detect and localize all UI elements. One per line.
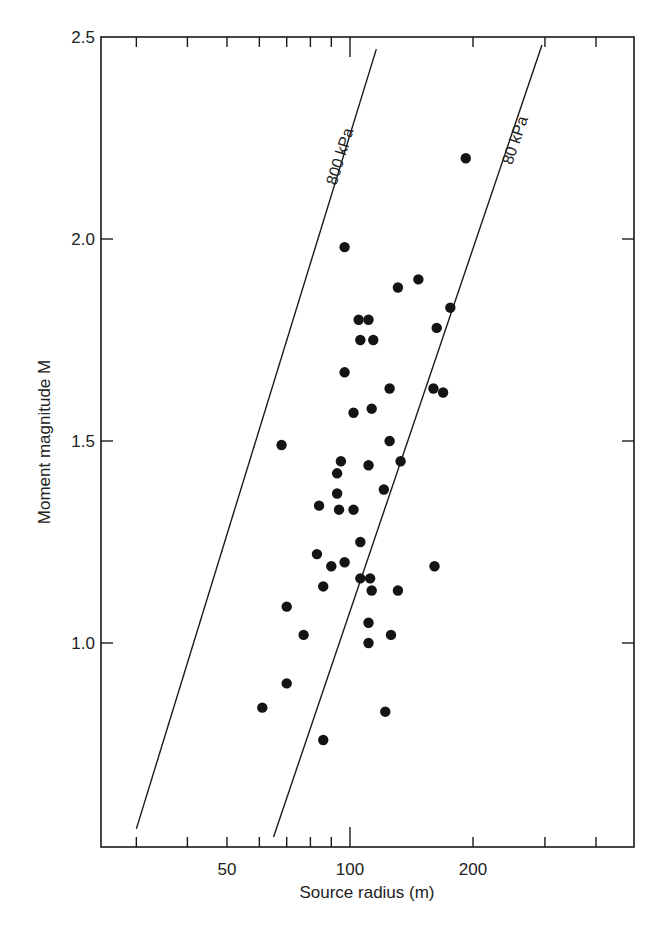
x-tick-labels: 50100200 xyxy=(218,860,488,879)
data-point xyxy=(445,302,455,312)
axis-ticks xyxy=(101,37,634,847)
data-point xyxy=(413,274,423,284)
data-point xyxy=(257,702,267,712)
x-tick-label: 100 xyxy=(336,860,364,879)
data-point xyxy=(326,561,336,571)
data-point xyxy=(312,549,322,559)
x-axis-title: Source radius (m) xyxy=(299,883,434,902)
data-point xyxy=(353,315,363,325)
stress-drop-800kpa-label: 800 kPa xyxy=(323,126,357,187)
y-tick-label: 1.5 xyxy=(71,432,95,451)
data-point xyxy=(386,630,396,640)
data-point xyxy=(438,387,448,397)
data-point xyxy=(380,706,390,716)
data-point xyxy=(393,282,403,292)
reference-line-labels: 800 kPa80 kPa xyxy=(323,114,531,187)
data-point xyxy=(363,315,373,325)
data-point xyxy=(363,460,373,470)
data-point xyxy=(318,735,328,745)
data-point xyxy=(384,383,394,393)
data-point xyxy=(318,581,328,591)
stress-drop-80kpa-label: 80 kPa xyxy=(499,114,531,167)
data-point xyxy=(431,323,441,333)
x-tick-label: 200 xyxy=(459,860,487,879)
data-point xyxy=(339,242,349,252)
data-points xyxy=(257,153,471,745)
plot-frame xyxy=(101,37,634,847)
data-point xyxy=(365,573,375,583)
y-tick-label: 2.5 xyxy=(71,28,95,47)
data-point xyxy=(368,335,378,345)
data-point xyxy=(339,367,349,377)
data-point xyxy=(366,585,376,595)
data-point xyxy=(384,436,394,446)
data-point xyxy=(379,484,389,494)
y-axis-title: Moment magnitude M xyxy=(35,360,54,524)
data-point xyxy=(395,456,405,466)
y-tick-label: 1.0 xyxy=(71,634,95,653)
data-point xyxy=(276,440,286,450)
data-point xyxy=(348,504,358,514)
data-point xyxy=(363,638,373,648)
data-point xyxy=(363,618,373,628)
data-point xyxy=(332,468,342,478)
data-point xyxy=(355,335,365,345)
scatter-chart: 800 kPa80 kPa 50100200 2.52.01.51.0 Sour… xyxy=(0,0,668,934)
data-point xyxy=(298,630,308,640)
y-tick-label: 2.0 xyxy=(71,230,95,249)
data-point xyxy=(348,408,358,418)
data-point xyxy=(355,573,365,583)
data-point xyxy=(366,403,376,413)
data-point xyxy=(393,585,403,595)
data-point xyxy=(461,153,471,163)
data-point xyxy=(428,383,438,393)
data-point xyxy=(314,500,324,510)
data-point xyxy=(282,601,292,611)
data-point xyxy=(336,456,346,466)
data-point xyxy=(355,537,365,547)
data-point xyxy=(339,557,349,567)
x-tick-label: 50 xyxy=(218,860,237,879)
data-point xyxy=(282,678,292,688)
data-point xyxy=(332,488,342,498)
data-point xyxy=(334,504,344,514)
stress-drop-80kpa-line xyxy=(274,45,542,837)
data-point xyxy=(429,561,439,571)
y-tick-labels: 2.52.01.51.0 xyxy=(71,28,95,653)
